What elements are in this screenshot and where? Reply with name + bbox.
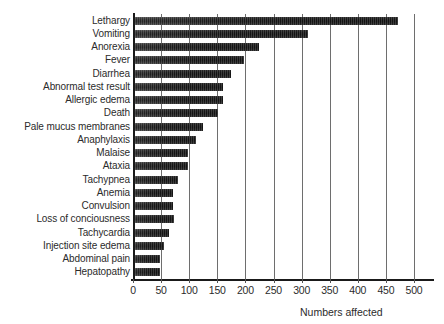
x-axis-title: Numbers affected <box>300 306 383 318</box>
category-label: Death <box>0 107 130 118</box>
category-label: Lethargy <box>0 15 130 26</box>
bar <box>133 255 160 263</box>
bar <box>133 43 259 51</box>
bar <box>133 215 174 223</box>
category-label: Abdominal pain <box>0 253 130 264</box>
x-axis-line <box>131 279 434 281</box>
bar <box>133 268 160 276</box>
gridline <box>161 14 162 279</box>
category-label: Anaphylaxis <box>0 134 130 145</box>
y-axis-line <box>133 13 135 280</box>
bar <box>133 30 308 38</box>
x-axis-tick <box>189 279 190 283</box>
bar <box>133 96 223 104</box>
bar <box>133 189 173 197</box>
x-axis-tick <box>302 279 303 283</box>
bar <box>133 176 178 184</box>
bar <box>133 229 169 237</box>
bar <box>133 109 218 117</box>
category-label: Tachypnea <box>0 174 130 185</box>
bar <box>133 136 196 144</box>
category-label: Anemia <box>0 187 130 198</box>
category-axis-labels: LethargyVomitingAnorexiaFeverDiarrheaAbn… <box>0 14 130 279</box>
x-axis-tick <box>274 279 275 283</box>
gridline <box>302 14 303 279</box>
category-label: Abnormal test result <box>0 81 130 92</box>
x-axis-tick <box>330 279 331 283</box>
category-label: Fever <box>0 54 130 65</box>
gridline <box>217 14 218 279</box>
plot-area <box>133 14 414 279</box>
category-label: Hepatopathy <box>0 266 130 277</box>
x-axis-tick <box>358 279 359 283</box>
category-label: Diarrhea <box>0 68 130 79</box>
category-label: Tachycardia <box>0 227 130 238</box>
bar <box>133 70 231 78</box>
category-label: Ataxia <box>0 160 130 171</box>
category-label: Anorexia <box>0 41 130 52</box>
bar <box>133 83 223 91</box>
bar <box>133 149 188 157</box>
x-axis-tick <box>161 279 162 283</box>
category-label: Pale mucus membranes <box>0 121 130 132</box>
gridline <box>189 14 190 279</box>
bar <box>133 162 188 170</box>
bar <box>133 56 244 64</box>
gridline <box>330 14 331 279</box>
x-axis-tick <box>386 279 387 283</box>
bar-chart-figure: LethargyVomitingAnorexiaFeverDiarrheaAbn… <box>0 0 444 324</box>
x-axis-tick-label: 500 <box>394 284 434 296</box>
x-axis-tick <box>414 279 415 283</box>
x-axis-tick <box>217 279 218 283</box>
x-axis-tick <box>245 279 246 283</box>
gridline <box>358 14 359 279</box>
category-label: Malaise <box>0 147 130 158</box>
gridline <box>274 14 275 279</box>
bar <box>133 242 164 250</box>
gridline <box>414 14 415 279</box>
category-label: Allergic edema <box>0 94 130 105</box>
gridline <box>245 14 246 279</box>
category-label: Vomiting <box>0 28 130 39</box>
bar <box>133 17 398 25</box>
category-label: Convulsion <box>0 200 130 211</box>
category-label: Injection site edema <box>0 240 130 251</box>
bar <box>133 202 173 210</box>
bar <box>133 123 203 131</box>
category-label: Loss of conciousness <box>0 213 130 224</box>
gridline <box>386 14 387 279</box>
x-axis-tick <box>133 279 134 283</box>
